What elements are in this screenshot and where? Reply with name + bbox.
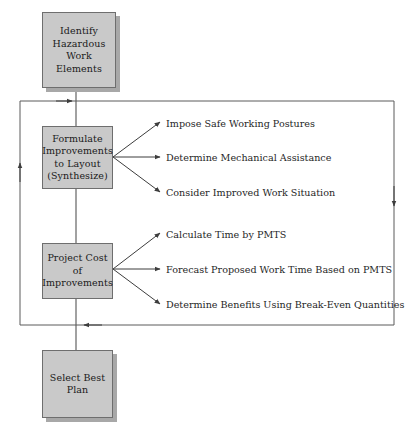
branch-arrow-consider-improved-work-situation [113,157,160,192]
node-label-project-cost-of-improvements: Project Cost of Improvements [39,252,116,290]
branch-arrow-determine-benefits-break-even [113,269,160,304]
node-project-cost-of-improvements[interactable]: Project Cost of Improvements [42,243,113,299]
branch-label-impose-safe-working-postures: Impose Safe Working Postures [166,118,315,129]
branch-arrow-calculate-time-by-pmts [113,233,160,269]
branch-arrow-impose-safe-working-postures [113,122,160,157]
branch-label-calculate-time-by-pmts: Calculate Time by PMTS [166,229,286,240]
branch-label-forecast-proposed-work-time: Forecast Proposed Work Time Based on PMT… [166,264,392,275]
node-label-formulate-improvements: Formulate Improvements to Layout (Synthe… [39,133,116,183]
branch-label-consider-improved-work-situation: Consider Improved Work Situation [166,187,335,198]
flowchart-diagram: Identify Hazardous Work Elements Formula… [0,0,412,429]
node-label-identify-hazardous-work-elements: Identify Hazardous Work Elements [50,25,109,75]
branch-label-determine-mechanical-assistance: Determine Mechanical Assistance [166,152,331,163]
node-select-best-plan[interactable]: Select Best Plan [42,350,113,418]
branch-arrows-project-cost [113,233,160,304]
branch-label-determine-benefits-break-even: Determine Benefits Using Break-Even Quan… [166,299,404,310]
node-label-select-best-plan: Select Best Plan [47,372,108,397]
node-formulate-improvements[interactable]: Formulate Improvements to Layout (Synthe… [42,126,113,189]
branch-arrows-formulate [113,122,160,192]
node-identify-hazardous-work-elements[interactable]: Identify Hazardous Work Elements [42,12,116,88]
